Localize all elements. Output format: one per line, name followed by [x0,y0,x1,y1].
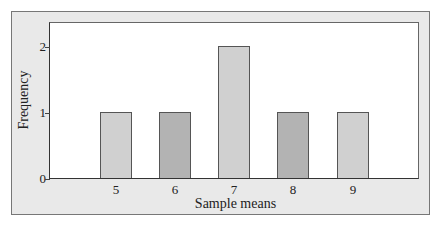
bar-6 [159,112,191,178]
y-tick-2 [45,47,50,48]
y-tick-1 [45,113,50,114]
bar-9 [337,112,369,178]
x-axis-title: Sample means [0,196,441,212]
bar-5 [100,112,132,178]
y-axis-title: Frequency [16,41,32,100]
y-tick-label-0: 0 [32,171,46,187]
plot-area [49,22,419,179]
bar-8 [277,112,309,178]
y-tick-label-2: 2 [32,39,46,55]
bar-7 [218,46,250,178]
y-tick-0 [45,179,50,180]
y-tick-label-1: 1 [32,105,46,121]
